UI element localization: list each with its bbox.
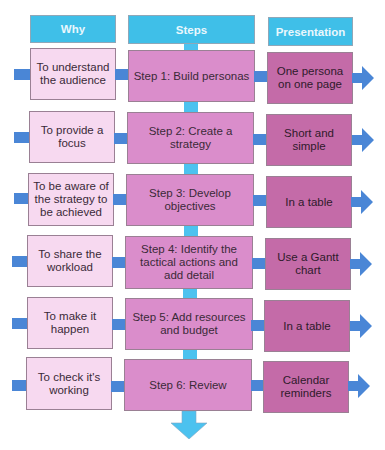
row4-why-box: To share the workload	[27, 235, 113, 287]
down-arrow-icon	[171, 411, 207, 439]
row5-presentation-text: In a table	[283, 320, 330, 333]
row3-step-text: Step 3: Develop objectives	[130, 187, 250, 213]
right-arrow-icon	[348, 374, 370, 398]
row4-step-box: Step 4: Identify the tactical actions an…	[125, 236, 253, 289]
row2-mid-connector	[114, 133, 128, 144]
header-steps: Steps	[128, 15, 255, 44]
header-presentation-label: Presentation	[276, 26, 346, 38]
row3-right-connector	[253, 195, 267, 206]
row5-right-connector	[251, 320, 265, 331]
row4-mid-connector	[112, 257, 126, 268]
steps-connector-5-6	[183, 349, 197, 359]
header-steps-label: Steps	[176, 24, 207, 36]
row6-step-text: Step 6: Review	[149, 379, 226, 392]
row5-mid-connector	[112, 319, 126, 330]
row1-why-box: To understand the audience	[30, 48, 116, 100]
row1-right-connector	[254, 71, 268, 82]
row2-right-connector	[253, 134, 267, 145]
row2-step-box: Step 2: Create a strategy	[127, 112, 254, 164]
row4-presentation-box: Use a Gantt chart	[265, 238, 351, 290]
row1-left-connector	[14, 69, 31, 80]
row2-why-box: To provide a focus	[29, 111, 115, 163]
right-arrow-icon	[352, 128, 374, 152]
row5-step-text: Step 5: Add resources and budget	[129, 311, 249, 337]
steps-connector-2-3	[184, 163, 198, 174]
row2-presentation-text: Short and simple	[270, 127, 348, 153]
row1-presentation-text: One persona on one page	[271, 65, 349, 91]
row3-mid-connector	[113, 194, 127, 205]
row4-why-text: To share the workload	[31, 248, 109, 274]
row3-presentation-text: In a table	[285, 196, 332, 209]
row6-mid-connector	[111, 381, 125, 392]
row4-right-connector	[252, 258, 266, 269]
row6-presentation-text: Calendar reminders	[267, 374, 345, 400]
right-arrow-icon	[350, 314, 372, 338]
row3-why-text: To be aware of the strategy to be achiev…	[32, 180, 110, 219]
steps-connector-3-4	[184, 225, 198, 236]
row5-why-text: To make it happen	[31, 310, 109, 336]
right-arrow-icon	[351, 190, 373, 214]
row1-presentation-box: One persona on one page	[267, 52, 353, 104]
row2-step-text: Step 2: Create a strategy	[131, 125, 250, 151]
row6-why-box: To check it's working	[26, 357, 112, 410]
row5-step-box: Step 5: Add resources and budget	[125, 298, 253, 350]
right-arrow-icon	[352, 66, 374, 90]
row1-step-text: Step 1: Build personas	[134, 70, 250, 83]
row1-mid-connector	[115, 69, 129, 80]
row2-presentation-box: Short and simple	[266, 114, 352, 166]
right-arrow-icon	[350, 252, 372, 276]
header-why: Why	[30, 15, 116, 43]
row3-presentation-box: In a table	[266, 176, 352, 228]
steps-connector-4-5	[183, 288, 197, 298]
row6-why-text: To check it's working	[30, 371, 108, 397]
row4-step-text: Step 4: Identify the tactical actions an…	[129, 243, 249, 282]
row6-step-box: Step 6: Review	[124, 359, 252, 411]
row4-presentation-text: Use a Gantt chart	[269, 251, 347, 277]
header-presentation: Presentation	[268, 17, 353, 46]
steps-connector-1-2	[184, 101, 198, 112]
row5-why-box: To make it happen	[27, 297, 113, 349]
row6-presentation-box: Calendar reminders	[263, 361, 349, 413]
row1-step-box: Step 1: Build personas	[128, 50, 255, 102]
row5-presentation-box: In a table	[264, 300, 350, 352]
row2-why-text: To provide a focus	[33, 124, 111, 150]
header-why-label: Why	[61, 23, 85, 35]
row3-step-box: Step 3: Develop objectives	[126, 174, 254, 226]
row3-why-box: To be aware of the strategy to be achiev…	[28, 173, 114, 226]
row1-why-text: To understand the audience	[34, 61, 112, 87]
